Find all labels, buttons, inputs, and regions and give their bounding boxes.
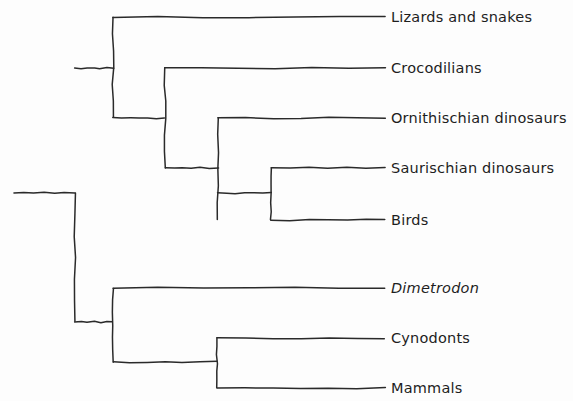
taxon-label-crocodilians: Crocodilians bbox=[391, 61, 482, 76]
taxon-label-birds: Birds bbox=[391, 213, 428, 228]
cladogram-figure: Lizards and snakesCrocodiliansOrnithisch… bbox=[0, 0, 573, 401]
taxon-label-ornithischian-dinosaurs: Ornithischian dinosaurs bbox=[391, 111, 567, 126]
taxon-label-dimetrodon: Dimetrodon bbox=[391, 281, 479, 296]
taxon-label-lizards-and-snakes: Lizards and snakes bbox=[391, 10, 532, 25]
taxon-label-mammals: Mammals bbox=[391, 381, 463, 396]
taxon-label-cynodonts: Cynodonts bbox=[391, 331, 470, 346]
taxon-labels: Lizards and snakesCrocodiliansOrnithisch… bbox=[0, 0, 573, 401]
taxon-label-saurischian-dinosaurs: Saurischian dinosaurs bbox=[391, 161, 554, 176]
